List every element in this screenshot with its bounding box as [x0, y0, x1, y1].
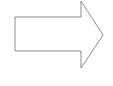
right-arrow-icon — [0, 0, 113, 86]
arrow-shape — [15, 1, 103, 68]
diagram-canvas — [0, 0, 113, 86]
